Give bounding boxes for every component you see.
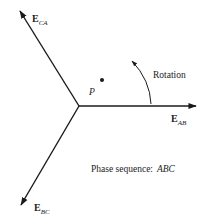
point-p-dot [100,78,104,82]
phasor-ebc-arrow [21,106,79,205]
label-eab: EAB [171,113,187,127]
label-eca: ECA [32,13,48,27]
rotation-label: Rotation [153,70,186,80]
point-p-label: P [88,87,95,97]
phase-sequence-label: Phase sequence:ABC [91,164,176,174]
phasor-diagram: P ECA EAB EBC Rotation Phase sequence:AB… [0,0,204,220]
label-ebc: EBC [34,202,50,216]
rotation-arrow [132,61,151,104]
phasor-eca-arrow [20,11,79,106]
